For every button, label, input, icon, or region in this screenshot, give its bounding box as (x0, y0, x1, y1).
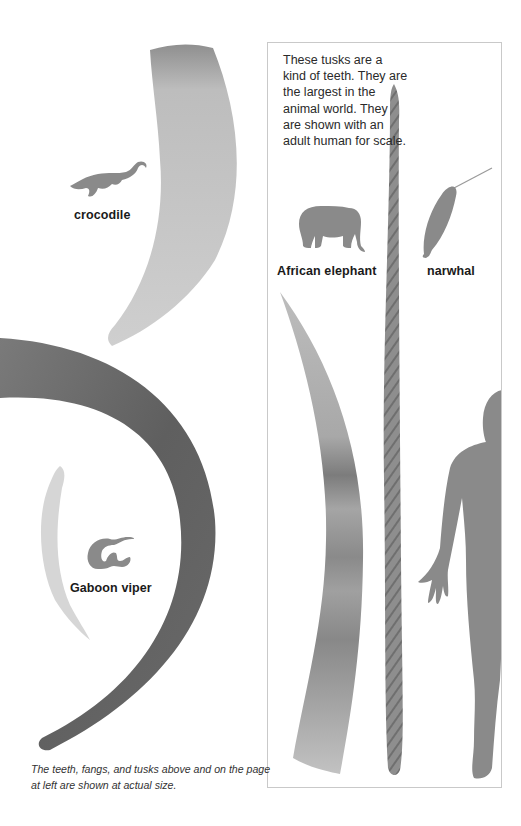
snake-silhouette-icon (86, 535, 136, 571)
tusk-intro-text: These tusks are a kind of teeth. They ar… (283, 52, 408, 149)
narwhal-silhouette-icon (420, 166, 496, 260)
tusk-comparison-panel (267, 42, 502, 788)
gaboon-viper-label: Gaboon viper (70, 581, 152, 595)
narwhal-label: narwhal (427, 264, 475, 278)
crocodile-silhouette-icon (68, 158, 150, 200)
elephant-silhouette-icon (295, 202, 367, 254)
actual-size-caption: The teeth, fangs, and tusks above and on… (31, 762, 271, 793)
gaboon-viper-fang (41, 466, 90, 640)
african-elephant-label: African elephant (277, 264, 377, 278)
crocodile-label: crocodile (74, 208, 130, 222)
